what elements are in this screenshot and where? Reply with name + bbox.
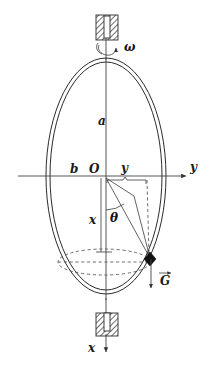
bead-path xyxy=(58,249,150,275)
theta-arc xyxy=(106,204,124,210)
diagram-canvas: ω y a b O y xyxy=(0,0,213,366)
gravity-vector-label: G xyxy=(160,274,170,288)
x-coordinate-label: x xyxy=(88,213,97,227)
physics-diagram: ω y a b O y xyxy=(0,0,213,366)
origin-label: O xyxy=(89,162,100,176)
semi-major-label: a xyxy=(98,114,106,128)
y-axis-label: y xyxy=(189,160,198,174)
bottom-bearing xyxy=(96,313,118,336)
x-axis-label: x xyxy=(87,341,96,355)
theta-label: θ xyxy=(110,211,118,225)
semi-minor-label: b xyxy=(70,162,78,176)
y-distance-label: y xyxy=(120,161,129,175)
gravity-vector-label-group: G xyxy=(159,273,171,288)
top-bearing xyxy=(96,15,118,40)
y-measure-brace xyxy=(107,177,146,184)
projection-line xyxy=(147,180,149,256)
omega-label: ω xyxy=(124,40,136,54)
